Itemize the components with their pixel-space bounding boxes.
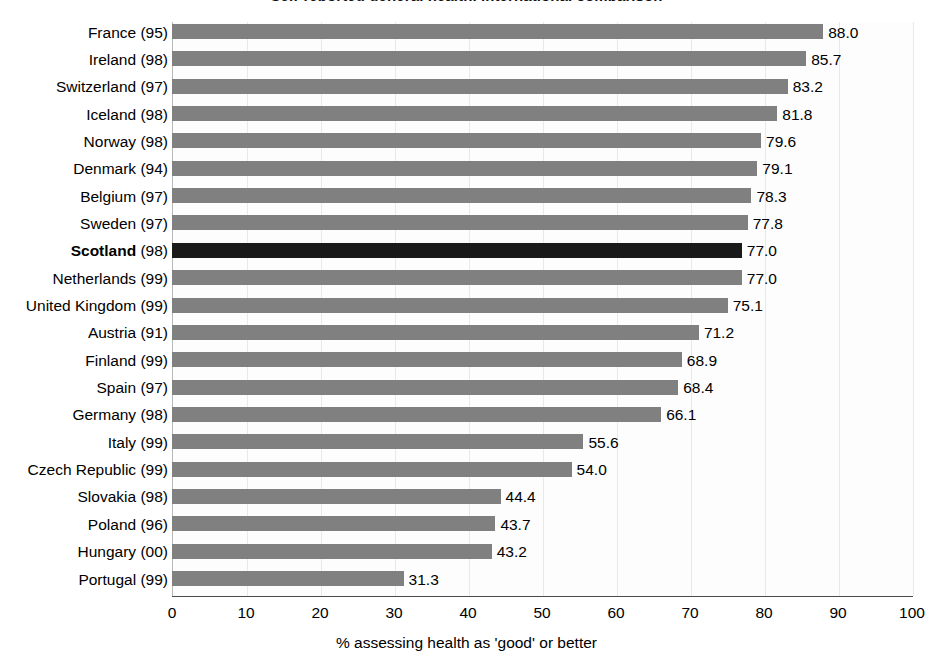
value-labels-layer: 88.085.783.281.879.679.178.377.877.077.0…	[0, 0, 933, 660]
x-tick-label: 80	[739, 604, 789, 622]
x-tick-label: 70	[665, 604, 715, 622]
x-axis-title: % assessing health as 'good' or better	[0, 634, 933, 652]
x-axis-line	[172, 596, 913, 597]
bar-value-label: 79.1	[762, 161, 792, 176]
bar-value-label: 85.7	[811, 52, 841, 67]
bar-value-label: 79.6	[766, 134, 796, 149]
bar-value-label: 77.0	[747, 271, 777, 286]
x-tick-label: 100	[887, 604, 933, 622]
bar-value-label: 68.9	[687, 353, 717, 368]
bar-value-label: 83.2	[793, 79, 823, 94]
bar-value-label: 78.3	[756, 189, 786, 204]
x-tick-label: 10	[221, 604, 271, 622]
bar-value-label: 43.7	[500, 517, 530, 532]
bar-value-label: 31.3	[409, 572, 439, 587]
bar-chart: Self-reported general health, internatio…	[0, 0, 933, 660]
x-tick-label: 90	[813, 604, 863, 622]
bar-value-label: 43.2	[497, 544, 527, 559]
bar-value-label: 71.2	[704, 325, 734, 340]
x-tick-label: 50	[517, 604, 567, 622]
x-tick-label: 30	[369, 604, 419, 622]
x-tick-label: 40	[443, 604, 493, 622]
bar-value-label: 81.8	[782, 107, 812, 122]
x-tick-label: 60	[591, 604, 641, 622]
bar-value-label: 77.8	[753, 216, 783, 231]
bar-value-label: 66.1	[666, 407, 696, 422]
bar-value-label: 77.0	[747, 243, 777, 258]
bar-value-label: 54.0	[577, 462, 607, 477]
bar-value-label: 75.1	[733, 298, 763, 313]
x-tick-label: 0	[147, 604, 197, 622]
bar-value-label: 68.4	[683, 380, 713, 395]
bar-value-label: 88.0	[828, 25, 858, 40]
bar-value-label: 44.4	[506, 489, 536, 504]
bar-value-label: 55.6	[588, 435, 618, 450]
x-tick-label: 20	[295, 604, 345, 622]
